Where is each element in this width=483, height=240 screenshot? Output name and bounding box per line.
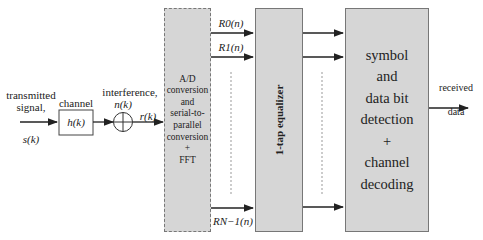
received-signal-symbol: r(k)	[136, 110, 160, 122]
fft-line: and	[167, 97, 209, 109]
equalizer-block: 1-tap equalizer	[255, 8, 303, 232]
interference-label: interference,	[95, 86, 165, 98]
detection-line: channel	[360, 152, 413, 174]
detection-line: data bit	[360, 88, 413, 110]
channel-label: channel	[56, 97, 96, 109]
input-label-line2: signal,	[2, 101, 60, 113]
subcarrier-label-r1: R1(n)	[213, 41, 249, 53]
fft-line: parallel	[167, 120, 209, 132]
subcarrier-label-r0: R0(n)	[213, 17, 249, 29]
channel-block: h(k)	[59, 116, 93, 128]
fft-line: conversion	[167, 85, 209, 97]
input-label: transmitted signal,	[2, 89, 60, 113]
fft-block: A/D conversion and serial-to- parallel c…	[164, 8, 211, 232]
fft-line: serial-to-	[167, 108, 209, 120]
subcarrier-label-rn1: RN−1(n)	[211, 215, 255, 227]
fft-line: A/D	[167, 74, 209, 86]
detection-line: detection	[360, 109, 413, 131]
detection-line: decoding	[360, 174, 413, 196]
fft-line: conversion	[167, 132, 209, 144]
detection-block: symbol and data bit detection + channel …	[345, 8, 429, 232]
output-label-line2: data	[433, 106, 479, 118]
fft-line: FFT	[167, 155, 209, 167]
detection-line: symbol	[360, 45, 413, 67]
interference-symbol: n(k)	[108, 98, 138, 110]
input-symbol: s(k)	[16, 133, 46, 145]
detection-line: and	[360, 66, 413, 88]
input-label-line1: transmitted	[2, 89, 60, 101]
output-label-line1: received	[433, 82, 479, 94]
fft-line: +	[167, 143, 209, 155]
adder-icon	[113, 112, 133, 132]
detection-line: +	[360, 131, 413, 153]
equalizer-label: 1-tap equalizer	[273, 85, 285, 156]
